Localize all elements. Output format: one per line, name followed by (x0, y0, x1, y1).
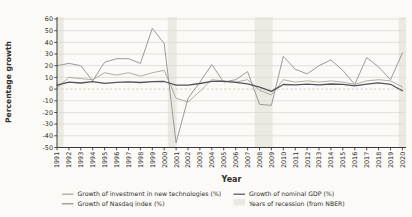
x-tick-label: 1996 (113, 152, 121, 168)
y-tick-label: -10 (43, 97, 53, 105)
legend-nasdaq-label: Growth of Nasdaq index (%) (78, 200, 165, 208)
x-tick-label: 2004 (208, 152, 216, 168)
recession-band (57, 17, 64, 148)
x-tick-label: 2017 (363, 152, 371, 168)
y-tick-label: -40 (43, 132, 53, 140)
legend-recession-label: Years of recession (from NBER) (248, 200, 345, 207)
x-tick-label: 2006 (232, 152, 240, 168)
x-tick-label: 2000 (161, 152, 169, 168)
x-tick-label: 2013 (315, 152, 323, 168)
x-tick-label: 2001 (173, 152, 181, 168)
x-tick-label: 2020 (399, 152, 407, 168)
y-tick-label: 20 (45, 62, 53, 70)
x-tick-label: 2018 (375, 152, 383, 168)
x-tick-label: 2014 (327, 152, 335, 168)
x-tick-label: 1993 (77, 152, 85, 168)
y-tick-label: 30 (45, 50, 53, 58)
recession-band (399, 17, 406, 148)
x-tick-label: 2015 (339, 152, 347, 168)
x-tick-label: 2007 (244, 152, 252, 168)
x-tick-label: 1995 (101, 152, 109, 168)
chart-figure: 6050403020100-10-20-30-40-50199119921993… (0, 0, 412, 217)
x-tick-label: 2002 (184, 152, 192, 168)
x-tick-label: 2012 (304, 152, 312, 168)
y-tick-label: 40 (45, 39, 53, 47)
recession-band (255, 17, 273, 148)
x-tick-label: 2019 (387, 152, 395, 168)
y-tick-label: 60 (45, 15, 53, 23)
legend-gdp-label: Growth of nominal GDP (%) (249, 190, 334, 197)
x-tick-label: 1998 (137, 152, 145, 168)
x-tick-label: 1991 (53, 152, 61, 168)
legend-recession-swatch (234, 199, 246, 206)
y-axis-title: Percentage growth (4, 41, 13, 123)
y-tick-label: -20 (43, 109, 53, 117)
line-chart: 6050403020100-10-20-30-40-50199119921993… (0, 0, 412, 217)
y-tick-label: -50 (43, 144, 53, 152)
x-tick-label: 2005 (220, 152, 228, 168)
x-tick-label: 2009 (268, 152, 276, 168)
y-tick-label: 50 (45, 27, 53, 35)
legend-investment-label: Growth of investment in new technologies… (78, 190, 222, 198)
x-tick-label: 2010 (280, 152, 288, 168)
y-tick-label: 10 (45, 74, 53, 82)
x-tick-label: 2011 (292, 152, 300, 168)
x-tick-label: 1994 (89, 152, 97, 168)
x-tick-label: 1992 (65, 152, 73, 168)
x-tick-label: 1997 (125, 152, 133, 168)
x-axis-title: Year (221, 175, 242, 184)
x-tick-label: 2016 (351, 152, 359, 168)
x-tick-label: 2008 (256, 152, 264, 168)
x-tick-label: 2003 (196, 152, 204, 168)
y-tick-label: 0 (49, 85, 53, 93)
y-tick-label: -30 (43, 120, 53, 128)
x-tick-label: 1999 (149, 152, 157, 168)
